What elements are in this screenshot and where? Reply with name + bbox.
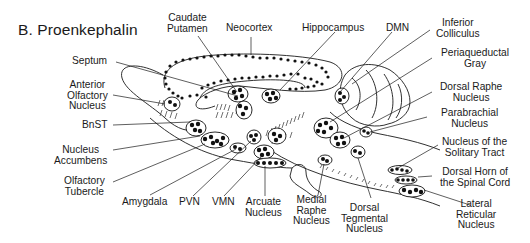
neocortex-outline [164, 54, 342, 109]
label-dmn: DMN [386, 23, 409, 34]
label-hippocampus: Hippocampus [302, 23, 364, 34]
leader-medial-raphe [318, 164, 324, 195]
leader-dorsal-tegmental [358, 158, 371, 198]
cerebellum-outline [340, 65, 410, 126]
anterior-olfactory-nucleus [164, 97, 180, 111]
leader-pvn [193, 141, 251, 196]
label-nucleus-accumbens: NucleusAccumbens [54, 145, 107, 166]
label-pvn: PVN [179, 197, 200, 208]
pituitary-outline [290, 165, 321, 198]
leader-anterior-olfactory [113, 95, 165, 104]
leader-caudate-putamen [198, 36, 237, 92]
label-inferior-colliculus: InferiorColliculus [436, 18, 480, 39]
leader-bnst [113, 122, 190, 125]
label-caudate-putamen: CaudatePutamen [167, 13, 208, 34]
label-vmn: VMN [212, 197, 235, 208]
leader-olfactory-tubercle [113, 144, 205, 182]
bnst-nucleus [186, 120, 206, 136]
medial-raphe-nucleus [318, 155, 332, 165]
dorsal-tegmental-cluster [351, 146, 365, 158]
dmn-cluster-2 [335, 88, 349, 104]
leader-amygdala [150, 149, 236, 195]
leader-nts [398, 145, 438, 168]
leader-nucleus-accumbens [113, 136, 200, 150]
caudate-nucleus-cluster-2 [236, 101, 252, 119]
leader-parabrachial [370, 117, 427, 132]
label-parabrachial-nucleus: ParabrachialNucleus [441, 108, 498, 129]
label-dorsal-raphe-nucleus: Dorsal RapheNucleus [440, 82, 502, 103]
leader-dorsal-horn [418, 176, 432, 177]
leader-vmn [224, 156, 262, 196]
label-anterior-olfactory-nucleus: AnteriorOlfactoryNucleus [67, 80, 108, 112]
label-olfactory-tubercle: OlfactoryTubercle [64, 176, 105, 197]
label-dorsal-horn-spinal-cord: Dorsal Horn ofthe Spinal Cord [440, 167, 510, 188]
label-septum: Septum [72, 56, 107, 67]
label-amygdala: Amygdala [122, 197, 167, 208]
label-nucleus-solitary-tract: Nucleus of theSolitary Tract [442, 137, 507, 158]
leader-dorsal-raphe [344, 92, 432, 138]
leader-inferior-colliculus [352, 30, 430, 84]
label-medial-raphe-nucleus: MedialRapheNucleus [293, 195, 330, 227]
label-periaqueductal-gray: PeriaqueductalGray [441, 48, 509, 69]
label-neocortex: Neocortex [226, 23, 272, 34]
label-arcuate-nucleus: ArcuateNucleus [245, 197, 282, 218]
cerebellum-folia [352, 70, 402, 120]
label-bnst: BnST [82, 120, 107, 131]
label-dorsal-tegmental-nucleus: DorsalTegmentalNucleus [341, 203, 388, 235]
label-lateral-reticular-nucleus: LateralReticularNucleus [456, 199, 496, 231]
nuclei [164, 86, 425, 197]
dorsal-raphe-cluster [330, 132, 350, 148]
